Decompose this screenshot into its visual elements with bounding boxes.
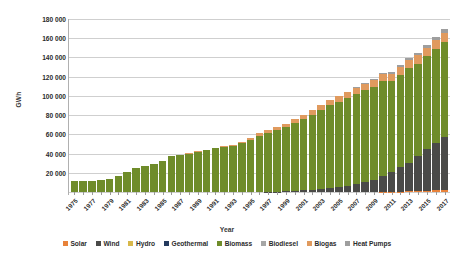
x-tick-mark — [242, 192, 243, 195]
legend-item-biogas[interactable]: Biogas — [307, 240, 336, 247]
x-label-slot: 2017 — [441, 196, 449, 226]
bar-column[interactable] — [194, 19, 202, 192]
bar-column[interactable] — [423, 19, 431, 192]
legend-item-wind[interactable]: Wind — [96, 240, 120, 247]
x-tick-mark — [330, 192, 331, 195]
bar-segment-biomass — [71, 181, 79, 192]
bar-column[interactable] — [353, 19, 361, 192]
x-tick-mark — [163, 192, 164, 195]
bar-column[interactable] — [264, 19, 272, 192]
x-tick-mark — [251, 192, 252, 195]
bar-column[interactable] — [141, 19, 149, 192]
bar-column[interactable] — [414, 19, 422, 192]
bar-column[interactable] — [220, 19, 228, 192]
bar-column[interactable] — [379, 19, 387, 192]
legend-swatch-icon — [96, 241, 101, 246]
legend-label: Biodiesel — [269, 240, 298, 247]
x-tick-mark — [348, 192, 349, 195]
bar-column[interactable] — [212, 19, 220, 192]
bar-column[interactable] — [317, 19, 325, 192]
bar-column[interactable] — [247, 19, 255, 192]
x-label-slot: 1999 — [282, 196, 290, 226]
bar-column[interactable] — [123, 19, 131, 192]
bar-column[interactable] — [397, 19, 405, 192]
x-label-slot: 2007 — [353, 196, 361, 226]
legend-item-biomass[interactable]: Biomass — [217, 240, 252, 247]
bar-segment-biomass — [141, 166, 149, 192]
bar-column[interactable] — [132, 19, 140, 192]
bar-column[interactable] — [159, 19, 167, 192]
bar-column[interactable] — [97, 19, 105, 192]
bar-segment-wind — [423, 149, 431, 190]
bar-column[interactable] — [203, 19, 211, 192]
x-tick-mark — [189, 192, 190, 195]
bar-column[interactable] — [335, 19, 343, 192]
legend-label: Hydro — [136, 240, 155, 247]
legend-item-heat-pumps[interactable]: Heat Pumps — [345, 240, 391, 247]
bar-column[interactable] — [176, 19, 184, 192]
x-tick-mark — [74, 192, 75, 195]
x-axis-tick-label: 1975 — [64, 197, 79, 212]
x-tick-mark — [286, 192, 287, 195]
bar-segment-biomass — [317, 110, 325, 189]
bar-column[interactable] — [291, 19, 299, 192]
legend-item-geothermal[interactable]: Geothermal — [164, 240, 208, 247]
bar-column[interactable] — [370, 19, 378, 192]
bar-segment-wind — [405, 163, 413, 192]
bar-column[interactable] — [432, 19, 440, 192]
x-label-slot: 1985 — [159, 196, 167, 226]
bar-column[interactable] — [168, 19, 176, 192]
x-tick-mark — [356, 192, 357, 195]
bar-column[interactable] — [273, 19, 281, 192]
legend-swatch-icon — [164, 241, 169, 246]
bar-column[interactable] — [185, 19, 193, 192]
y-axis-tick-label: 140 000 — [24, 54, 66, 61]
x-tick-mark — [259, 192, 260, 195]
bar-column[interactable] — [388, 19, 396, 192]
bar-column[interactable] — [441, 19, 449, 192]
bar-column[interactable] — [115, 19, 123, 192]
legend-item-solar[interactable]: Solar — [63, 240, 87, 247]
bar-segment-biomass — [361, 90, 369, 182]
legend-item-hydro[interactable]: Hydro — [128, 240, 155, 247]
bar-segment-biomass — [282, 127, 290, 191]
bar-column[interactable] — [300, 19, 308, 192]
bar-segment-biomass — [150, 164, 158, 192]
legend-label: Wind — [103, 240, 119, 247]
legend-item-biodiesel[interactable]: Biodiesel — [261, 240, 298, 247]
bar-segment-biomass — [132, 168, 140, 193]
bar-column[interactable] — [309, 19, 317, 192]
bar-column[interactable] — [71, 19, 79, 192]
bar-column[interactable] — [238, 19, 246, 192]
bar-column[interactable] — [229, 19, 237, 192]
bar-column[interactable] — [361, 19, 369, 192]
x-tick-mark — [127, 192, 128, 195]
bar-segment-wind — [379, 176, 387, 191]
bar-column[interactable] — [326, 19, 334, 192]
y-axis-tick-label: 120 000 — [24, 73, 66, 80]
bar-column[interactable] — [344, 19, 352, 192]
bar-column[interactable] — [88, 19, 96, 192]
bar-column[interactable] — [405, 19, 413, 192]
bar-segment-wind — [414, 156, 422, 191]
x-label-slot: 1983 — [141, 196, 149, 226]
bar-column[interactable] — [256, 19, 264, 192]
bar-column[interactable] — [282, 19, 290, 192]
bars-layer — [69, 19, 450, 192]
bar-column[interactable] — [79, 19, 87, 192]
plot-area — [69, 19, 450, 192]
bar-column[interactable] — [106, 19, 114, 192]
x-label-slot: 2013 — [405, 196, 413, 226]
y-axis-title: GWh — [15, 80, 22, 120]
x-label-slot: 1993 — [229, 196, 237, 226]
x-tick-mark — [339, 192, 340, 195]
x-tick-mark — [304, 192, 305, 195]
x-tick-mark — [118, 192, 119, 195]
bar-segment-biogas — [370, 80, 378, 87]
bar-segment-biomass — [203, 150, 211, 192]
bar-column[interactable] — [150, 19, 158, 192]
bar-segment-biomass — [405, 68, 413, 162]
x-tick-mark — [374, 192, 375, 195]
bar-segment-biomass — [123, 172, 131, 192]
x-tick-mark — [154, 192, 155, 195]
